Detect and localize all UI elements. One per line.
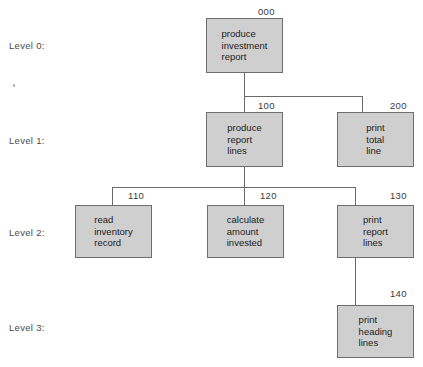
- module-line-3: lines: [227, 145, 261, 157]
- structure-chart-diagram: Level 0: Level 1: Level 2: Level 3: 000 …: [0, 0, 423, 367]
- module-box-110[interactable]: read inventory record: [75, 205, 152, 258]
- module-ref-120: 120: [260, 190, 277, 201]
- module-line-2: total: [366, 134, 384, 146]
- module-text-000: produce investment report: [222, 28, 268, 63]
- connector-000-stem: [244, 73, 245, 96]
- module-text-120: calculate amount invested: [227, 214, 265, 249]
- module-line-3: lines: [363, 237, 388, 249]
- level-label-0: Level 0:: [9, 40, 45, 51]
- module-text-130: print report lines: [363, 214, 388, 249]
- module-ref-100: 100: [258, 100, 275, 111]
- module-box-140[interactable]: print heading lines: [337, 305, 414, 358]
- connector-level2-bus: [112, 187, 356, 188]
- module-box-000[interactable]: produce investment report: [206, 18, 283, 73]
- module-text-110: read inventory record: [94, 214, 133, 249]
- module-line-1: print: [366, 122, 384, 134]
- module-box-120[interactable]: calculate amount invested: [207, 205, 284, 258]
- module-line-1: read: [94, 214, 133, 226]
- module-ref-000: 000: [258, 6, 275, 17]
- module-box-100[interactable]: produce report lines: [206, 112, 283, 167]
- module-box-200[interactable]: print total line: [337, 112, 414, 167]
- module-ref-130: 130: [390, 190, 407, 201]
- connector-drop-130: [355, 187, 356, 205]
- connector-130-to-140: [355, 258, 356, 305]
- connector-100-stem: [244, 167, 245, 187]
- module-ref-200: 200: [390, 100, 407, 111]
- module-line-3: invested: [227, 237, 265, 249]
- level-label-3: Level 3:: [9, 322, 45, 333]
- scan-speck-artifact: [13, 84, 15, 87]
- module-line-2: amount: [227, 226, 265, 238]
- module-line-3: lines: [359, 337, 393, 349]
- module-box-130[interactable]: print report lines: [337, 205, 414, 258]
- connector-drop-120: [244, 187, 245, 205]
- module-line-3: report: [222, 51, 268, 63]
- module-line-1: produce: [222, 28, 268, 40]
- connector-level1-bus: [244, 96, 363, 97]
- module-ref-140: 140: [390, 288, 407, 299]
- module-line-1: print: [359, 314, 393, 326]
- module-line-3: record: [94, 237, 133, 249]
- connector-drop-110: [112, 187, 113, 205]
- module-text-140: print heading lines: [359, 314, 393, 349]
- module-line-2: report: [227, 134, 261, 146]
- module-line-3: line: [366, 145, 384, 157]
- module-text-100: produce report lines: [227, 122, 261, 157]
- module-line-1: calculate: [227, 214, 265, 226]
- module-line-2: investment: [222, 40, 268, 52]
- module-line-2: heading: [359, 326, 393, 338]
- level-label-2: Level 2:: [9, 227, 45, 238]
- module-line-2: report: [363, 226, 388, 238]
- module-text-200: print total line: [366, 122, 384, 157]
- module-line-2: inventory: [94, 226, 133, 238]
- module-ref-110: 110: [128, 190, 144, 201]
- module-line-1: produce: [227, 122, 261, 134]
- level-label-1: Level 1:: [9, 135, 45, 146]
- module-line-1: print: [363, 214, 388, 226]
